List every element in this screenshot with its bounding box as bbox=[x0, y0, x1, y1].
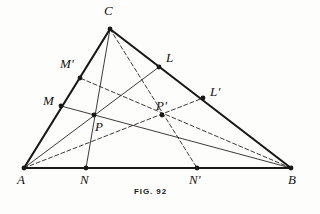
figure-caption: FIG. 92 bbox=[134, 187, 167, 196]
point-dot-M bbox=[59, 104, 64, 109]
side-AC bbox=[24, 29, 110, 168]
point-label-Np: N' bbox=[189, 173, 201, 186]
point-label-Lp: L' bbox=[210, 85, 220, 98]
point-label-Mp: M' bbox=[60, 57, 74, 70]
point-dot-B bbox=[289, 166, 294, 171]
side-BC bbox=[110, 29, 291, 168]
cevian-ALp bbox=[24, 98, 203, 168]
point-dot-Lp bbox=[201, 96, 206, 101]
cevian-CNp bbox=[110, 29, 197, 168]
point-label-P: P bbox=[95, 120, 103, 133]
point-label-B: B bbox=[288, 173, 296, 186]
figure-page: ABCNN'MM'LL'PP' FIG. 92 bbox=[0, 0, 320, 214]
point-dot-L bbox=[157, 65, 162, 70]
point-label-Pp: P' bbox=[156, 99, 167, 112]
point-dot-Mp bbox=[78, 76, 83, 81]
cevian-AL bbox=[24, 67, 159, 168]
point-label-N: N bbox=[80, 173, 89, 186]
point-label-L: L bbox=[166, 51, 173, 64]
point-dot-N bbox=[84, 166, 89, 171]
point-dot-A bbox=[22, 166, 27, 171]
point-dot-C bbox=[108, 27, 113, 32]
point-dot-P bbox=[92, 113, 97, 118]
point-label-A: A bbox=[17, 173, 25, 186]
point-label-M: M bbox=[43, 94, 54, 107]
cevian-BMp bbox=[80, 78, 291, 168]
point-dot-Np bbox=[195, 166, 200, 171]
point-label-C: C bbox=[104, 4, 113, 17]
point-dot-Pp bbox=[160, 113, 165, 118]
